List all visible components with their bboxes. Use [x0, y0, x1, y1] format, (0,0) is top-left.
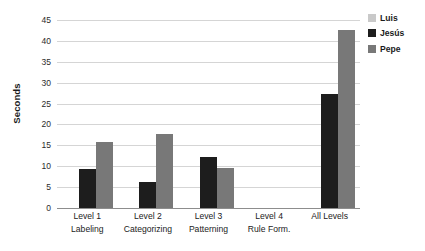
y-tick-label: 25	[42, 99, 51, 109]
bar-groups	[57, 20, 360, 208]
y-tick-label: 20	[42, 119, 51, 129]
y-tick-label: 30	[42, 78, 51, 88]
bar-jesus	[200, 157, 217, 208]
chart-legend: LuisJesúsPepe	[368, 12, 425, 59]
bar-jesus	[321, 94, 338, 208]
y-tick-label: 35	[42, 57, 51, 67]
y-tick-label: 0	[46, 203, 51, 213]
x-axis-labels: Level 1LabelingLevel 2CategorizingLevel …	[57, 210, 360, 250]
bar-group	[57, 20, 118, 208]
legend-swatch-icon	[368, 45, 376, 53]
legend-swatch-icon	[368, 14, 376, 22]
bar-group	[118, 20, 179, 208]
legend-label: Pepe	[380, 44, 401, 54]
y-axis-title: Seconds	[11, 69, 22, 139]
y-tick-label: 5	[46, 182, 51, 192]
bar-pepe	[338, 30, 355, 208]
x-axis-label-line2: Patterning	[178, 223, 239, 236]
x-axis-label-line1: Level 3	[178, 210, 239, 223]
x-axis-label-line2: Categorizing	[118, 223, 179, 236]
axis-baseline: 0	[57, 208, 360, 209]
x-axis-label: Level 3Patterning	[178, 210, 239, 250]
bar-jesus	[79, 169, 96, 208]
x-axis-label: Level 1Labeling	[57, 210, 118, 250]
bar-group	[239, 20, 300, 208]
x-axis-label: Level 4Rule Form.	[239, 210, 300, 250]
bar-group-bars	[239, 20, 300, 208]
legend-item[interactable]: Pepe	[368, 43, 425, 54]
bar-group	[178, 20, 239, 208]
x-axis-label: All Levels	[299, 210, 360, 250]
x-axis-label-line1: Level 1	[57, 210, 118, 223]
legend-item[interactable]: Jesús	[368, 28, 425, 39]
y-tick-label: 45	[42, 15, 51, 25]
bar-pepe	[217, 168, 234, 208]
legend-label: Luis	[380, 13, 398, 23]
bar-group-bars	[118, 20, 179, 208]
x-axis-label: Level 2Categorizing	[118, 210, 179, 250]
bar-group-bars	[178, 20, 239, 208]
y-tick-label: 10	[42, 161, 51, 171]
y-tick-label: 15	[42, 140, 51, 150]
bar-jesus	[139, 182, 156, 208]
x-axis-label-line1: Level 2	[118, 210, 179, 223]
plot-area: 454035302520151050	[57, 20, 360, 208]
y-tick-label: 40	[42, 36, 51, 46]
x-axis-label-line2: Labeling	[57, 223, 118, 236]
bar-group-bars	[299, 20, 360, 208]
bar-chart: Seconds 454035302520151050 Level 1Labeli…	[0, 0, 425, 251]
x-axis-label-line1: All Levels	[299, 210, 360, 223]
legend-item[interactable]: Luis	[368, 12, 425, 23]
legend-label: Jesús	[380, 28, 404, 38]
bar-group-bars	[57, 20, 118, 208]
bar-group	[299, 20, 360, 208]
bar-pepe	[156, 134, 173, 208]
legend-swatch-icon	[368, 29, 376, 37]
x-axis-label-line2: Rule Form.	[239, 223, 300, 236]
bar-pepe	[96, 142, 113, 208]
x-axis-label-line1: Level 4	[239, 210, 300, 223]
